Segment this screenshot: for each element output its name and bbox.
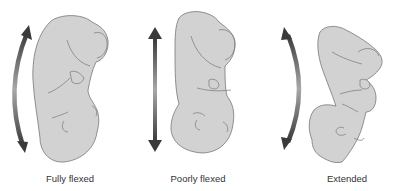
poorly-flexed-illustration (131, 0, 262, 191)
caption-poorly-flexed: Poorly flexed (165, 173, 231, 184)
curved-double-arrow-icon (281, 27, 299, 150)
caption-fully-flexed: Fully flexed (40, 173, 100, 184)
curved-double-arrow-icon (14, 25, 32, 153)
extended-illustration (262, 0, 393, 191)
panel-fully-flexed: Fully flexed (0, 0, 131, 191)
fully-flexed-illustration (0, 0, 131, 191)
panel-poorly-flexed: Poorly flexed (131, 0, 262, 191)
fetus-figure-extended (309, 26, 382, 162)
straight-double-arrow-icon (148, 27, 162, 152)
caption-extended: Extended (322, 173, 372, 184)
fetus-figure-poorly-flexed (171, 12, 235, 153)
panel-extended: Extended (262, 0, 393, 191)
fetus-figure-fully-flexed (33, 16, 108, 162)
